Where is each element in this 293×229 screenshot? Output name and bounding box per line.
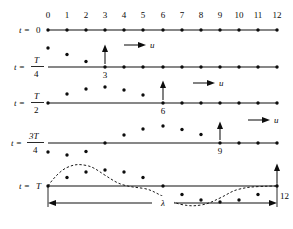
- row-label-t0: t =: [19, 25, 30, 35]
- scale-number-3: 3: [103, 10, 108, 20]
- row-label-t0-value: 0: [36, 25, 41, 35]
- velocity-label-tT2: u: [219, 78, 224, 88]
- marker-label-t3T4: 9: [218, 146, 223, 156]
- row-label-tT4-denominator: 4: [34, 69, 39, 79]
- row-label-t3T4-numerator: 3T: [28, 131, 40, 141]
- scale-number-6: 6: [161, 10, 166, 20]
- velocity-arrow-t3T4: [248, 117, 270, 123]
- scale-number-0: 0: [46, 10, 51, 20]
- row-label-tT2-denominator: 2: [34, 105, 39, 115]
- scale-number-1: 1: [65, 10, 70, 20]
- row-label-t3T4-denominator: 4: [33, 145, 38, 155]
- scale-number-4: 4: [122, 10, 127, 20]
- row-label-tT-value: T: [36, 181, 42, 191]
- scale-number-9: 9: [218, 10, 223, 20]
- row-label-tT2-numerator: T: [34, 91, 40, 101]
- velocity-label-tT4: u: [150, 40, 155, 50]
- scale-number-12: 12: [273, 10, 282, 20]
- row-tT2: t = T 2 6 u: [14, 78, 279, 116]
- up-arrow-t3T4: [217, 122, 223, 141]
- row-tT: t = T 12: [19, 164, 289, 209]
- end-marker-label: 12: [280, 191, 289, 201]
- row-t0: t = 0 0 1 2 3 4 5 6 7 8 9 10 11 12: [19, 10, 282, 35]
- scale-number-8: 8: [199, 10, 204, 20]
- up-arrow-tT2: [160, 81, 166, 101]
- scale-number-5: 5: [141, 10, 146, 20]
- row-t3T4: t = 3T 4 9 u: [11, 115, 279, 157]
- row-label-tT4-numerator: T: [34, 55, 40, 65]
- wavelength-measure: λ: [48, 186, 277, 208]
- particle-dots-tT4: [46, 46, 278, 68]
- wave-propagation-figure: t = 0 0 1 2 3 4 5 6 7 8 9 10 11 12: [0, 0, 293, 229]
- scale-number-2: 2: [84, 10, 89, 20]
- marker-label-tT4: 3: [103, 70, 108, 80]
- particle-dots-t3T4: [46, 124, 278, 156]
- row-tT4: t = T 4 3 u: [14, 40, 279, 80]
- marker-label-tT2: 6: [161, 106, 166, 116]
- up-arrow-tT: [274, 164, 280, 184]
- scale-number-7: 7: [180, 10, 185, 20]
- wavelength-label: λ: [160, 198, 165, 208]
- scale-number-10: 10: [235, 10, 245, 20]
- row-label-tT: t =: [19, 181, 30, 191]
- velocity-arrow-tT4: [124, 42, 146, 48]
- velocity-arrow-tT2: [193, 80, 215, 86]
- row-label-tT2: t =: [14, 98, 25, 108]
- up-arrow-tT4: [102, 45, 108, 65]
- row-label-tT4: t =: [14, 62, 25, 72]
- scale-number-11: 11: [254, 10, 263, 20]
- row-label-t3T4: t =: [11, 138, 22, 148]
- velocity-label-t3T4: u: [274, 115, 279, 125]
